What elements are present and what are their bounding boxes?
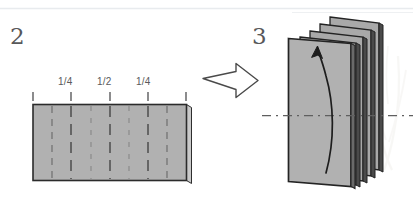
accordion-layer-2-edge — [363, 37, 367, 183]
accordion-layer-4-edge — [379, 23, 383, 172]
accordion-layer-1-edge — [356, 43, 360, 187]
step-2-group — [33, 92, 192, 184]
folding-diagram — [0, 0, 413, 198]
accordion-layer-3-edge — [371, 30, 375, 178]
front-panel — [289, 39, 352, 187]
